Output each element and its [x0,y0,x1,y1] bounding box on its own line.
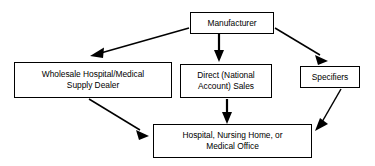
node-specifiers-label: Specifiers [310,72,351,83]
node-wholesale-dealer-label: Wholesale Hospital/Medical Supply Dealer [40,69,146,90]
node-direct-sales[interactable]: Direct (National Account) Sales [180,64,272,98]
edge-manufacturer-to-direct [214,34,224,62]
node-specifiers[interactable]: Specifiers [300,66,360,88]
edge-direct-to-endpoint [222,99,232,124]
edge-wholesale-to-endpoint [89,99,149,140]
node-manufacturer-label: Manufacturer [205,18,258,29]
edge-specifiers-to-endpoint [315,89,341,131]
node-healthcare-endpoint[interactable]: Hospital, Nursing Home, or Medical Offic… [153,124,312,158]
node-wholesale-dealer[interactable]: Wholesale Hospital/Medical Supply Dealer [14,62,172,98]
edge-manufacturer-to-specifiers [275,28,328,65]
flowchart-diagram: Manufacturer Wholesale Hospital/Medical … [0,0,375,166]
node-direct-sales-label: Direct (National Account) Sales [195,70,256,91]
edge-manufacturer-to-wholesale [90,28,189,58]
node-manufacturer[interactable]: Manufacturer [190,12,274,34]
node-healthcare-endpoint-label: Hospital, Nursing Home, or Medical Offic… [180,130,284,151]
